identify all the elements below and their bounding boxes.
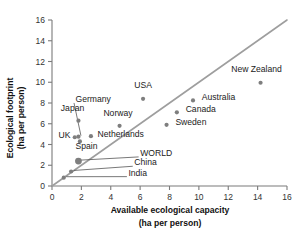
y-axis-title-text: Ecological footprint bbox=[5, 78, 15, 159]
y-tick-label: 6 bbox=[40, 119, 45, 129]
y-tick-label: 16 bbox=[36, 15, 46, 25]
y-axis-title: Ecological footprint (ha per person) bbox=[5, 78, 26, 159]
y-axis-units-text: (ha per person) bbox=[16, 87, 26, 150]
point-label-spain: Spain bbox=[76, 141, 98, 151]
x-tick-label: 14 bbox=[253, 192, 263, 202]
x-tick-label: 12 bbox=[224, 192, 234, 202]
data-point-world[interactable] bbox=[75, 158, 82, 165]
x-tick-label: 8 bbox=[167, 192, 172, 202]
y-tick-label: 8 bbox=[40, 98, 45, 108]
chart-canvas: 02468101214160246810121416 IndiaChinaWOR… bbox=[0, 0, 307, 235]
x-axis-units-text: (ha per person) bbox=[139, 218, 202, 228]
x-axis-title-text: Available ecological capacity bbox=[111, 205, 230, 215]
x-axis-title: Available ecological capacity (ha per pe… bbox=[111, 205, 230, 228]
y-tick-label: 10 bbox=[36, 77, 46, 87]
x-tick-label: 4 bbox=[108, 192, 113, 202]
data-point-australia[interactable] bbox=[191, 98, 195, 102]
point-label-uk: UK bbox=[59, 130, 71, 140]
point-label-sweden: Sweden bbox=[175, 117, 206, 127]
data-point-netherlands[interactable] bbox=[89, 134, 93, 138]
scatter-chart: 02468101214160246810121416 IndiaChinaWOR… bbox=[0, 0, 307, 235]
y-tick-label: 0 bbox=[40, 181, 45, 191]
point-label-new-zealand: New Zealand bbox=[231, 64, 282, 74]
data-point-india[interactable] bbox=[62, 176, 66, 180]
x-tick-label: 0 bbox=[50, 192, 55, 202]
data-point-japan[interactable] bbox=[76, 119, 80, 123]
data-point-canada[interactable] bbox=[175, 110, 179, 114]
point-label-india: India bbox=[128, 168, 147, 178]
point-label-australia: Australia bbox=[202, 92, 236, 102]
label-leader-line bbox=[74, 166, 133, 170]
y-tick-label: 4 bbox=[40, 140, 45, 150]
data-point-norway[interactable] bbox=[117, 124, 121, 128]
data-point-china[interactable] bbox=[69, 169, 73, 173]
point-label-japan: Japan bbox=[61, 103, 85, 113]
y-tick-label: 2 bbox=[40, 160, 45, 170]
point-label-world: WORLD bbox=[140, 148, 172, 158]
data-point-labels: IndiaChinaWORLDSpainUKGermanyNetherlands… bbox=[59, 64, 282, 178]
y-tick-label: 12 bbox=[36, 57, 46, 67]
point-label-canada: Canada bbox=[186, 104, 216, 114]
x-tick-label: 10 bbox=[194, 192, 204, 202]
x-tick-label: 16 bbox=[282, 192, 292, 202]
point-label-china: China bbox=[134, 157, 157, 167]
x-tick-label: 6 bbox=[138, 192, 143, 202]
y-tick-label: 14 bbox=[36, 36, 46, 46]
x-tick-label: 2 bbox=[79, 192, 84, 202]
point-label-usa: USA bbox=[134, 80, 152, 90]
data-point-new-zealand[interactable] bbox=[258, 81, 262, 85]
data-point-sweden[interactable] bbox=[164, 123, 168, 127]
data-point-uk[interactable] bbox=[73, 135, 77, 139]
data-point-germany[interactable] bbox=[76, 135, 80, 139]
point-label-netherlands: Netherlands bbox=[98, 129, 144, 139]
point-label-norway: Norway bbox=[103, 108, 133, 118]
data-point-usa[interactable] bbox=[141, 97, 145, 101]
